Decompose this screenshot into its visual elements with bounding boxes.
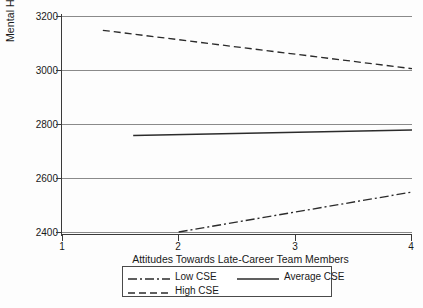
x-tick-label-2: 2 — [163, 241, 193, 252]
y-axis-label: Mental Health — [4, 0, 18, 74]
y-tick-label-2400: 2400 — [24, 227, 58, 238]
x-axis-label-wrapper: Attitudes Towards Late-Career Team Membe… — [0, 253, 423, 265]
legend-item-high-cse: High CSE — [127, 283, 219, 298]
legend-sample-dashed-icon — [127, 285, 171, 297]
legend-label-high-cse: High CSE — [175, 285, 219, 296]
plot-area — [62, 16, 412, 234]
y-tick-label-2800: 2800 — [24, 119, 58, 130]
chart-figure: Mental Health 3200 3000 2800 2600 2400 1… — [0, 0, 423, 308]
x-tick-label-3: 3 — [280, 241, 310, 252]
y-tick-label-3000: 3000 — [24, 65, 58, 76]
x-tick-label-4: 4 — [396, 241, 423, 252]
y-tick-label-3200: 3200 — [24, 11, 58, 22]
x-tick-label-1: 1 — [47, 241, 77, 252]
legend-label-average-cse: Average CSE — [284, 271, 344, 282]
legend-sample-solid-icon — [236, 271, 280, 283]
chart-legend: Low CSE Average CSE High CSE — [122, 266, 332, 297]
plot-svg — [62, 16, 414, 236]
legend-item-low-cse: Low CSE — [127, 269, 217, 284]
series-line-low-cse — [179, 192, 412, 232]
legend-label-low-cse: Low CSE — [175, 271, 217, 282]
gridlines — [62, 17, 412, 233]
series-line-average-cse — [133, 130, 412, 136]
series-line-high-cse — [103, 30, 412, 68]
x-axis-label: Attitudes Towards Late-Career Team Membe… — [132, 253, 349, 265]
y-tick-label-2600: 2600 — [24, 173, 58, 184]
legend-item-average-cse: Average CSE — [236, 269, 344, 284]
legend-sample-dash-dot-icon — [127, 271, 171, 283]
